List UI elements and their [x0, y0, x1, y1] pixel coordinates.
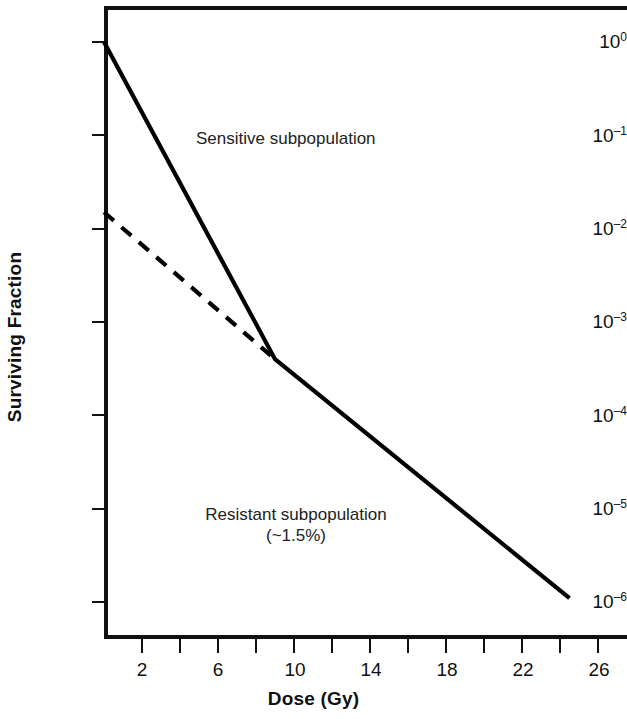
x-tick-label-2: 2 [122, 660, 162, 679]
x-axis-title: Dose (Gy) [0, 688, 627, 710]
annotation-resistant-subpopulation: Resistant subpopulation (~1.5%) [166, 504, 426, 547]
x-tick-label-26: 26 [579, 660, 619, 679]
y-tick-marks [92, 42, 106, 602]
y-tick-label-1e0: 100 [541, 32, 627, 51]
annotation-resistant-line2: (~1.5%) [266, 526, 326, 545]
y-tick-label-1e-6: 10–6 [541, 592, 627, 611]
x-tick-label-10: 10 [275, 660, 315, 679]
y-axis-title: Surviving Fraction [0, 0, 30, 637]
annotation-sensitive-subpopulation: Sensitive subpopulation [196, 128, 376, 149]
plot-canvas [0, 0, 627, 719]
y-tick-label-1e-3: 10–3 [541, 312, 627, 331]
chart-figure: Surviving Fraction Dose (Gy) 100 10–1 10… [0, 0, 627, 719]
y-tick-label-1e-4: 10–4 [541, 406, 627, 425]
y-tick-label-1e-2: 10–2 [541, 219, 627, 238]
x-tick-label-22: 22 [503, 660, 543, 679]
annotation-resistant-line1: Resistant subpopulation [205, 505, 386, 524]
y-axis-title-text: Surviving Fraction [4, 251, 26, 421]
x-tick-marks [142, 637, 598, 653]
x-tick-label-6: 6 [198, 660, 238, 679]
curve-resistant-subpopulation [104, 212, 275, 359]
x-tick-label-14: 14 [351, 660, 391, 679]
x-tick-label-18: 18 [427, 660, 467, 679]
y-tick-label-1e-5: 10–5 [541, 499, 627, 518]
y-tick-label-1e-1: 10–1 [541, 126, 627, 145]
